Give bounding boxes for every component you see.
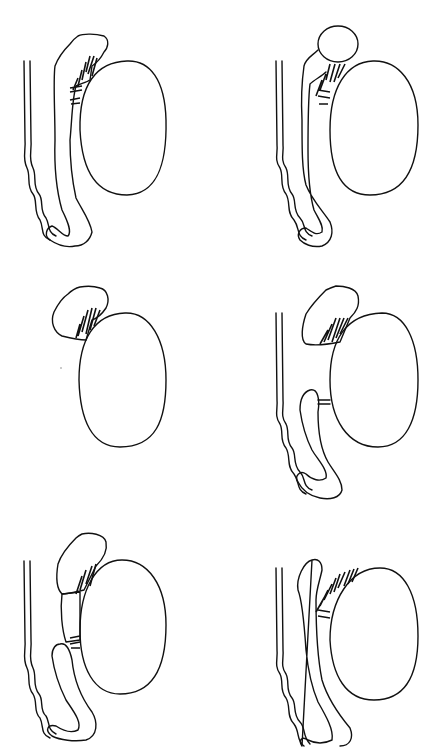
panel-4 — [276, 286, 418, 499]
vas-deferens-outer — [24, 61, 50, 240]
testis — [79, 313, 166, 447]
efferent-ducts — [316, 64, 345, 104]
vas-deferens-outer — [276, 313, 306, 494]
diagram-canvas — [0, 0, 440, 748]
speck — [60, 367, 62, 369]
epididymis-tail — [48, 644, 96, 741]
panel-5 — [24, 533, 166, 741]
vas-deferens-outer — [24, 561, 50, 738]
epididymis-head — [302, 286, 358, 345]
epididymis — [298, 559, 352, 746]
epididymis-body-tail — [297, 390, 342, 499]
panel-1 — [24, 34, 166, 246]
efferent-ducts-lower — [70, 636, 80, 648]
connecting-duct — [318, 400, 330, 404]
vas-deferens-inner — [282, 568, 310, 744]
efferent-ducts-long — [316, 568, 358, 618]
panel-2 — [276, 26, 418, 247]
testis — [330, 61, 418, 195]
vas-deferens-inner — [30, 61, 56, 236]
vas-deferens-inner — [30, 561, 56, 734]
epididymis-body-segment — [61, 592, 80, 642]
epididymis — [46, 34, 107, 246]
vas-deferens-inner — [282, 313, 312, 490]
epididymal-cyst — [318, 26, 358, 62]
testis — [80, 61, 166, 195]
panel-6 — [276, 559, 418, 746]
testis — [80, 560, 166, 694]
diagram-svg — [0, 0, 440, 748]
testis — [330, 568, 418, 700]
panel-3 — [52, 286, 166, 447]
